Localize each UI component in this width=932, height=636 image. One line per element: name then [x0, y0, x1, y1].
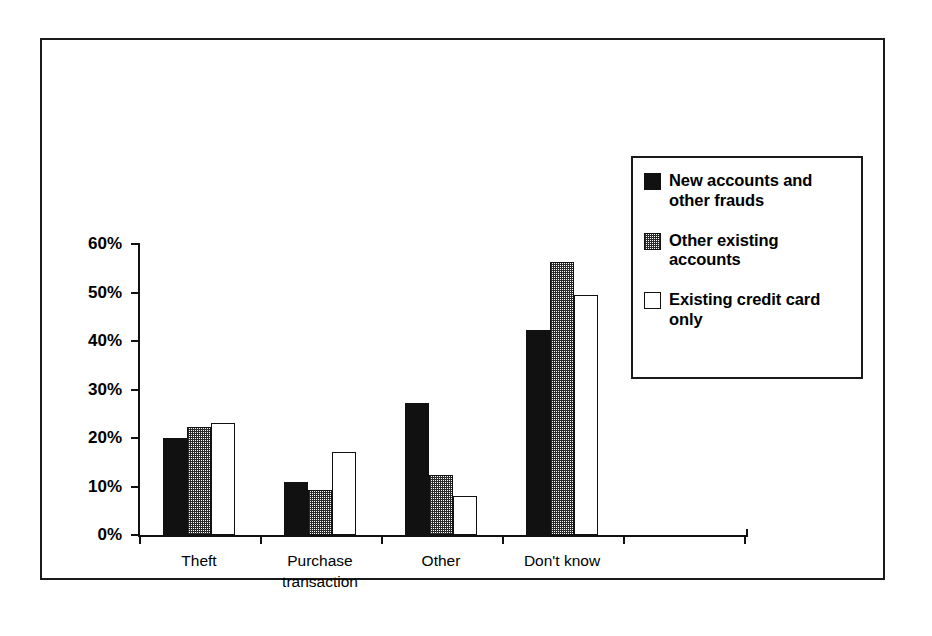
white-square-icon: [644, 292, 661, 309]
x-axis-line: [138, 535, 748, 537]
x-axis-tick-label: Don't know: [492, 551, 632, 572]
y-axis-tick-label: 50%: [62, 284, 122, 301]
bar: [332, 452, 356, 535]
legend-entry-label-line: other frauds: [669, 191, 812, 211]
x-axis-tick-label-line: Theft: [129, 551, 269, 572]
x-axis-tick: [381, 536, 383, 544]
y-axis-tick: [131, 486, 139, 488]
bar: [308, 490, 332, 535]
y-axis-tick-label: 40%: [62, 332, 122, 349]
bar: [405, 403, 429, 535]
x-axis-tick-label-line: Don't know: [492, 551, 632, 572]
bar: [187, 427, 211, 535]
y-axis-tick: [131, 389, 139, 391]
x-axis-end-cap: [746, 529, 748, 537]
y-axis-tick-label: 10%: [62, 478, 122, 495]
black-square-icon: [644, 173, 661, 190]
legend-entry-label: New accounts andother frauds: [669, 171, 812, 211]
x-axis-tick: [744, 536, 746, 544]
legend-entry-label: Other existingaccounts: [669, 231, 779, 271]
legend-entry-label-line: accounts: [669, 250, 779, 270]
y-axis-tick-label: 60%: [62, 235, 122, 252]
legend-entry: Existing credit cardonly: [644, 290, 851, 330]
bar: [211, 423, 235, 535]
x-axis-tick-label: Other: [371, 551, 511, 572]
bar: [284, 482, 308, 535]
bar: [453, 496, 477, 535]
x-axis-tick: [623, 536, 625, 544]
y-axis-tick: [131, 534, 139, 536]
chart-legend: New accounts andother fraudsOther existi…: [631, 156, 863, 379]
bar: [163, 438, 187, 535]
y-axis-tick-label: 0%: [62, 526, 122, 543]
x-axis-tick-label-line: Purchase: [250, 551, 390, 572]
y-axis-tick-label: 20%: [62, 429, 122, 446]
legend-entry-label-line: Existing credit card: [669, 290, 820, 310]
bar: [429, 475, 453, 535]
legend-entry: New accounts andother frauds: [644, 171, 851, 211]
x-axis-tick: [139, 536, 141, 544]
y-axis-tick: [131, 243, 139, 245]
bar: [526, 330, 550, 535]
x-axis-tick-label: Purchasetransaction: [250, 551, 390, 593]
legend-entry: Other existingaccounts: [644, 231, 851, 271]
gray-square-icon: [644, 233, 661, 250]
chart-figure: 0%10%20%30%40%50%60% TheftPurchasetransa…: [0, 0, 932, 636]
legend-entry-label: Existing credit cardonly: [669, 290, 820, 330]
x-axis-tick-label-line: Other: [371, 551, 511, 572]
y-axis-tick: [131, 437, 139, 439]
legend-entry-label-line: New accounts and: [669, 171, 812, 191]
x-axis-tick: [502, 536, 504, 544]
legend-entry-label-line: Other existing: [669, 231, 779, 251]
y-axis-tick: [131, 292, 139, 294]
bar: [574, 295, 598, 535]
y-axis-tick-label: 30%: [62, 381, 122, 398]
x-axis-tick-label-line: transaction: [250, 572, 390, 593]
bar: [550, 262, 574, 535]
legend-entry-label-line: only: [669, 310, 820, 330]
x-axis-tick: [260, 536, 262, 544]
y-axis-tick: [131, 340, 139, 342]
x-axis-tick-label: Theft: [129, 551, 269, 572]
